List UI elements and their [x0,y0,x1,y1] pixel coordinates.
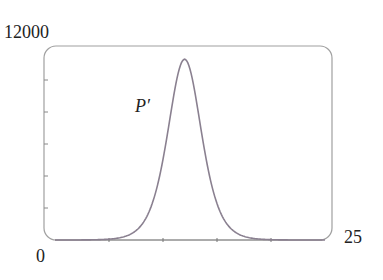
p-prime-curve [55,59,325,240]
y-max-label: 12000 [4,22,49,42]
curve-label: P′ [134,96,151,116]
x-max-label: 25 [344,227,362,247]
x-min-label: 0 [36,246,45,266]
plot-frame [44,46,332,240]
chart: 12000 0 25 P′ [0,0,383,280]
